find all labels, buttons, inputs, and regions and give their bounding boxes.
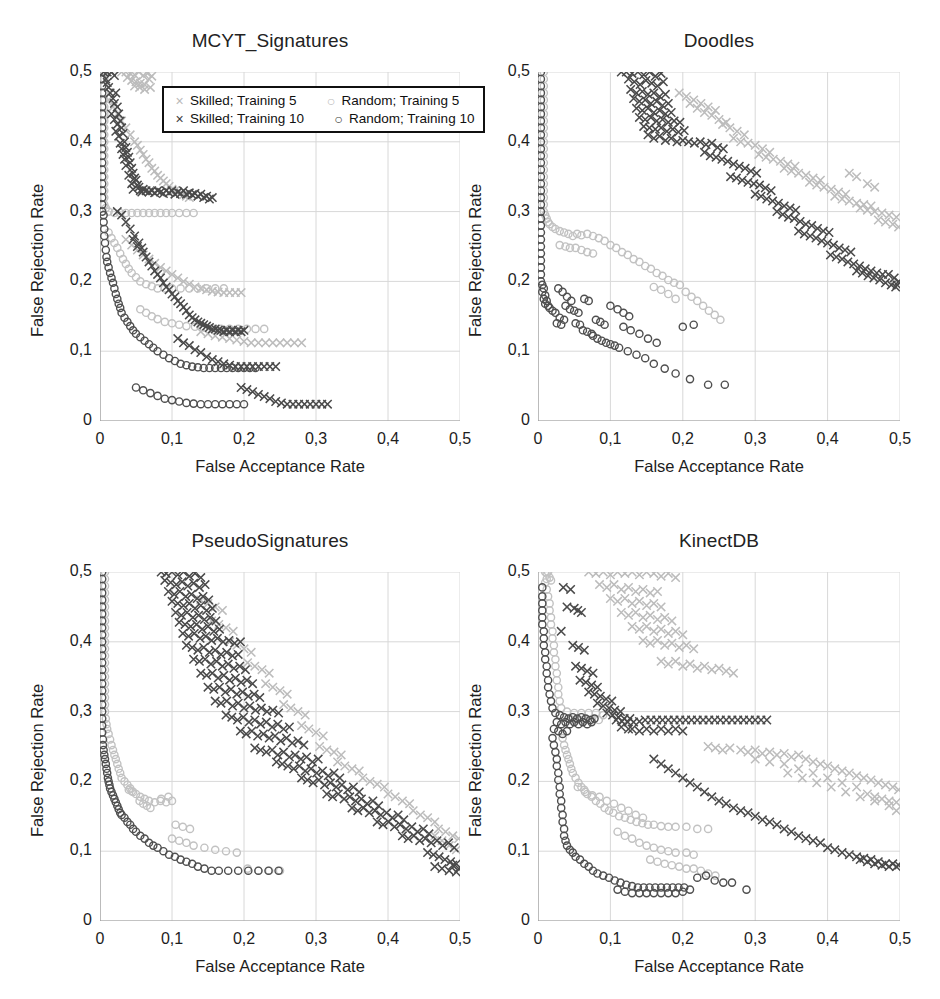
- plot-area: [538, 72, 900, 421]
- x-tick-label: 0,1: [147, 930, 197, 948]
- y-tick-label: 0,4: [48, 132, 92, 150]
- x-tick-label: 0,2: [219, 430, 269, 448]
- plot-area: [538, 572, 900, 921]
- y-tick-label: 0,4: [486, 632, 530, 650]
- legend-label: Skilled; Training 5: [190, 93, 297, 108]
- y-tick-label: 0: [48, 911, 92, 929]
- circle-marker: ○: [330, 112, 347, 126]
- y-tick-label: 0: [486, 411, 530, 429]
- y-tick-label: 0,5: [48, 562, 92, 580]
- y-tick-label: 0,4: [486, 132, 530, 150]
- legend-row: ×Skilled; Training 10○Random; Training 1…: [171, 111, 474, 126]
- y-tick-label: 0,2: [486, 771, 530, 789]
- y-axis-label: False Rejection Rate: [466, 683, 485, 836]
- panel-title: PseudoSignatures: [70, 530, 470, 552]
- legend-item-random-10: ○Random; Training 10: [330, 111, 474, 126]
- x-axis-label: False Acceptance Rate: [130, 957, 430, 976]
- x-axis-label: False Acceptance Rate: [130, 457, 430, 476]
- x-tick-label: 0,2: [219, 930, 269, 948]
- y-tick-label: 0,1: [486, 341, 530, 359]
- panel-kinectdb: KinectDB00,10,20,30,40,500,10,20,30,40,5…: [0, 0, 940, 999]
- y-tick-label: 0: [486, 911, 530, 929]
- x-tick-label: 0,4: [363, 430, 413, 448]
- y-tick-label: 0,5: [48, 62, 92, 80]
- y-tick-label: 0,3: [48, 202, 92, 220]
- x-tick-label: 0: [513, 930, 563, 948]
- y-tick-label: 0,3: [48, 702, 92, 720]
- x-marker: ×: [171, 94, 188, 108]
- y-tick-label: 0,3: [486, 702, 530, 720]
- y-tick-label: 0,1: [486, 841, 530, 859]
- x-tick-label: 0,3: [291, 930, 341, 948]
- x-tick-label: 0,4: [803, 430, 853, 448]
- x-tick-label: 0: [75, 930, 125, 948]
- y-tick-label: 0,2: [48, 271, 92, 289]
- x-tick-label: 0: [513, 430, 563, 448]
- legend-label: Skilled; Training 10: [190, 111, 304, 126]
- y-axis-label: False Rejection Rate: [466, 183, 485, 336]
- legend-row: ×Skilled; Training 5○Random; Training 5: [171, 93, 474, 108]
- x-axis-label: False Acceptance Rate: [569, 957, 869, 976]
- x-tick-label: 0,5: [435, 930, 485, 948]
- legend-label: Random; Training 10: [349, 111, 474, 126]
- panel-pseudosignatures: PseudoSignatures00,10,20,30,40,500,10,20…: [0, 0, 940, 999]
- x-tick-label: 0,2: [658, 930, 708, 948]
- y-tick-label: 0,5: [486, 62, 530, 80]
- x-tick-label: 0,5: [435, 430, 485, 448]
- plot-area: [100, 72, 460, 421]
- y-tick-label: 0,1: [48, 341, 92, 359]
- y-tick-label: 0: [48, 411, 92, 429]
- x-tick-label: 0,3: [291, 430, 341, 448]
- x-tick-label: 0,4: [363, 930, 413, 948]
- y-axis-label: False Rejection Rate: [28, 683, 47, 836]
- y-tick-label: 0,4: [48, 632, 92, 650]
- x-tick-label: 0,3: [730, 430, 780, 448]
- x-axis-label: False Acceptance Rate: [569, 457, 869, 476]
- legend-item-random-5: ○Random; Training 5: [323, 93, 460, 108]
- panel-title: MCYT_Signatures: [70, 30, 470, 52]
- x-tick-label: 0,1: [147, 430, 197, 448]
- x-tick-label: 0,5: [875, 930, 925, 948]
- plot-area: [100, 572, 460, 921]
- figure-root: MCYT_Signatures00,10,20,30,40,500,10,20,…: [0, 0, 940, 999]
- y-tick-label: 0,5: [486, 562, 530, 580]
- x-tick-label: 0,1: [585, 930, 635, 948]
- y-tick-label: 0,3: [486, 202, 530, 220]
- panel-doodles: Doodles00,10,20,30,40,500,10,20,30,40,5F…: [0, 0, 940, 999]
- circle-marker: ○: [323, 94, 340, 108]
- x-marker: ×: [171, 112, 188, 126]
- x-tick-label: 0,1: [585, 430, 635, 448]
- legend-item-skilled-5: ×Skilled; Training 5: [171, 93, 297, 108]
- x-tick-label: 0,5: [875, 430, 925, 448]
- legend-label: Random; Training 5: [342, 93, 460, 108]
- panel-title: KinectDB: [519, 530, 919, 552]
- y-tick-label: 0,2: [48, 771, 92, 789]
- legend-item-skilled-10: ×Skilled; Training 10: [171, 111, 304, 126]
- y-tick-label: 0,1: [48, 841, 92, 859]
- x-tick-label: 0,2: [658, 430, 708, 448]
- x-tick-label: 0,4: [803, 930, 853, 948]
- x-tick-label: 0,3: [730, 930, 780, 948]
- legend: ×Skilled; Training 5○Random; Training 5×…: [162, 86, 485, 133]
- panel-title: Doodles: [519, 30, 919, 52]
- y-axis-label: False Rejection Rate: [28, 183, 47, 336]
- x-tick-label: 0: [75, 430, 125, 448]
- y-tick-label: 0,2: [486, 271, 530, 289]
- panel-mcyt-signatures: MCYT_Signatures00,10,20,30,40,500,10,20,…: [0, 0, 940, 999]
